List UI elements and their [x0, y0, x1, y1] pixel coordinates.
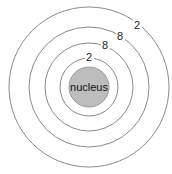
shell-4-label: 2: [134, 19, 140, 31]
shell-2-label: 8: [102, 39, 108, 51]
atom-diagram: 2 8 8 2 nucleus: [0, 0, 172, 174]
shell-1-label: 2: [86, 51, 92, 63]
shell-3-label: 8: [117, 30, 123, 42]
nucleus-label: nucleus: [70, 81, 108, 93]
